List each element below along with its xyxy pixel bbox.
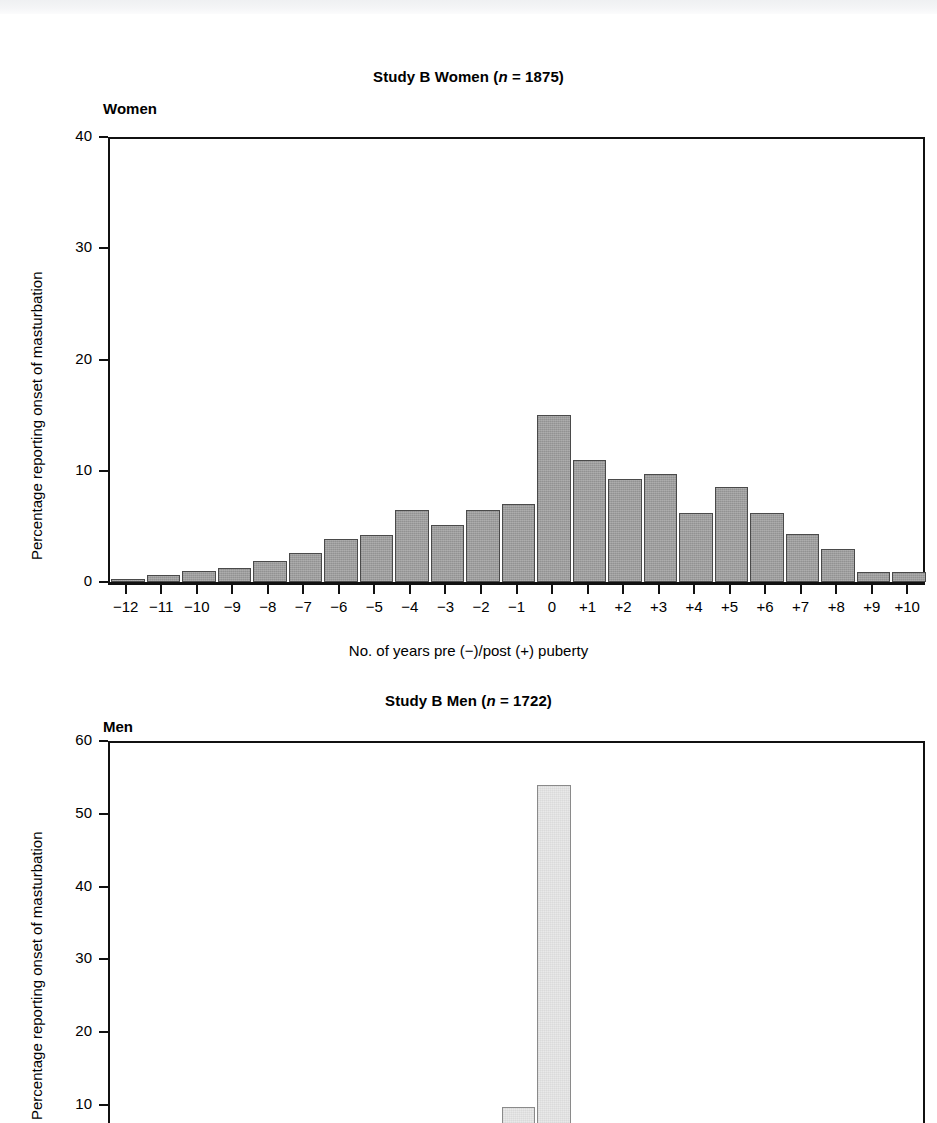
x-tick-women: [658, 584, 660, 594]
bar-men-minus1: [502, 1107, 536, 1123]
x-tick-women: [125, 584, 127, 594]
x-tick-women: [551, 584, 553, 594]
y-tick-label-men: 20: [52, 1022, 92, 1039]
y-tick-label-men: 40: [52, 877, 92, 894]
bar-women-plus7: [786, 534, 820, 582]
x-tick-women: [302, 584, 304, 594]
y-tick-women: [99, 470, 108, 472]
y-tick-men: [99, 1031, 108, 1033]
x-tick-women: [231, 584, 233, 594]
bar-women-plus9: [857, 572, 891, 582]
x-tick-women: [196, 584, 198, 594]
y-tick-label-women: 20: [52, 350, 92, 367]
x-tick-women: [480, 584, 482, 594]
bar-women-minus9: [218, 568, 252, 582]
title-italic-n: n: [486, 692, 495, 709]
bar-women-0: [537, 415, 571, 582]
y-tick-men: [99, 813, 108, 815]
y-axis-label-men: Percentage reporting onset of masturbati…: [28, 831, 45, 1120]
y-axis-label-women: Percentage reporting onset of masturbati…: [28, 271, 45, 560]
panel-label-men: Men: [103, 718, 133, 735]
chart-title-men: Study B Men (n = 1722): [0, 692, 937, 709]
y-tick-label-women: 40: [52, 127, 92, 144]
y-tick-label-men: 10: [52, 1095, 92, 1112]
bar-men-0: [537, 785, 571, 1123]
y-tick-label-men: 30: [52, 949, 92, 966]
y-tick-label-men: 50: [52, 804, 92, 821]
bar-women-minus3: [431, 525, 465, 582]
bar-women-minus4: [395, 510, 429, 582]
bar-women-minus6: [324, 539, 358, 582]
bar-women-minus11: [147, 575, 181, 582]
x-tick-women: [622, 584, 624, 594]
chart-title-women: Study B Women (n = 1875): [0, 68, 937, 85]
bar-women-minus7: [289, 553, 323, 582]
x-tick-women: [800, 584, 802, 594]
x-tick-women: [338, 584, 340, 594]
bar-women-minus12: [111, 579, 145, 582]
panel-label-women: Women: [103, 100, 157, 117]
bar-series-men: [110, 741, 923, 1123]
y-tick-label-men: 60: [52, 731, 92, 748]
x-tick-women: [729, 584, 731, 594]
x-tick-label-women: +10: [884, 598, 930, 615]
x-tick-women: [871, 584, 873, 594]
x-tick-women: [906, 584, 908, 594]
bar-women-plus5: [715, 487, 749, 582]
x-tick-women: [409, 584, 411, 594]
x-tick-women: [587, 584, 589, 594]
y-tick-women: [99, 359, 108, 361]
x-tick-women: [160, 584, 162, 594]
y-tick-label-women: 30: [52, 238, 92, 255]
bar-women-plus2: [608, 479, 642, 582]
x-axis-label-women: No. of years pre (−)/post (+) puberty: [0, 642, 937, 659]
bar-women-minus8: [253, 561, 287, 582]
y-tick-men: [99, 1104, 108, 1106]
title-italic-n: n: [498, 68, 507, 85]
bar-women-plus6: [750, 513, 784, 582]
x-tick-women: [835, 584, 837, 594]
bar-women-plus10: [892, 572, 926, 582]
y-tick-label-women: 10: [52, 461, 92, 478]
bar-women-plus1: [573, 460, 607, 582]
bar-women-plus3: [644, 474, 678, 582]
y-tick-men: [99, 958, 108, 960]
x-tick-women: [267, 584, 269, 594]
bar-women-plus4: [679, 513, 713, 582]
x-tick-women: [373, 584, 375, 594]
y-tick-men: [99, 886, 108, 888]
y-tick-women: [99, 581, 108, 583]
y-tick-women: [99, 136, 108, 138]
bar-women-plus8: [821, 549, 855, 582]
bar-women-minus5: [360, 535, 394, 582]
y-tick-women: [99, 247, 108, 249]
y-tick-men: [99, 740, 108, 742]
x-tick-women: [444, 584, 446, 594]
x-tick-women: [516, 584, 518, 594]
bar-series-women: [110, 137, 923, 582]
x-tick-women: [693, 584, 695, 594]
bar-women-minus10: [182, 571, 216, 582]
bar-women-minus1: [502, 504, 536, 582]
scan-artifact-strip: [0, 0, 937, 14]
y-tick-label-women: 0: [52, 572, 92, 589]
x-tick-women: [764, 584, 766, 594]
bar-women-minus2: [466, 510, 500, 582]
